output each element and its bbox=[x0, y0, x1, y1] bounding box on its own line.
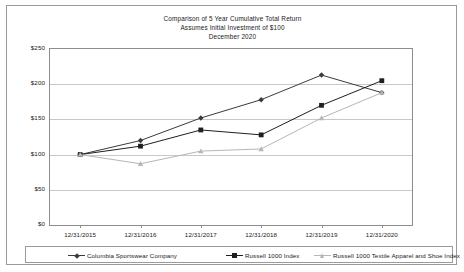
data-point-marker bbox=[138, 144, 143, 149]
y-axis-tick-label: $100 bbox=[9, 150, 45, 157]
data-point-marker bbox=[319, 103, 324, 108]
chart-legend: Columbia Sportswear CompanyRussell 1000 … bbox=[25, 246, 453, 263]
y-axis-tick-label: $200 bbox=[9, 79, 45, 86]
chart-title-block: Comparison of 5 Year Cumulative Total Re… bbox=[7, 14, 458, 42]
chart-title: Comparison of 5 Year Cumulative Total Re… bbox=[7, 14, 458, 23]
legend-swatch-triangle-icon bbox=[314, 251, 331, 260]
data-point-marker bbox=[259, 132, 264, 137]
data-point-marker bbox=[198, 115, 203, 120]
chart-date: December 2020 bbox=[7, 32, 458, 41]
legend-swatch-square-icon bbox=[226, 251, 243, 260]
series-line bbox=[80, 75, 382, 155]
chart-subtitle: Assumes Initial Investment of $100 bbox=[7, 23, 458, 32]
y-axis-tick-label: $250 bbox=[9, 44, 45, 51]
data-point-marker bbox=[258, 97, 263, 102]
legend-label: Columbia Sportswear Company bbox=[87, 252, 177, 259]
legend-swatch-diamond-icon bbox=[68, 251, 85, 260]
y-axis-tick-label: $0 bbox=[9, 220, 45, 227]
data-point-marker bbox=[198, 128, 203, 133]
data-point-marker bbox=[379, 78, 384, 83]
legend-entry: Russell 1000 Index bbox=[226, 250, 299, 261]
y-axis-tick-label: $50 bbox=[9, 185, 45, 192]
series-line bbox=[80, 93, 382, 164]
x-axis-tick-label: 12/31/2020 bbox=[347, 231, 417, 238]
chart-frame: Comparison of 5 Year Cumulative Total Re… bbox=[6, 5, 457, 265]
legend-entry: Columbia Sportswear Company bbox=[68, 250, 177, 261]
legend-label: Russell 1000 Index bbox=[245, 252, 299, 259]
series-line bbox=[80, 81, 382, 155]
data-point-marker bbox=[319, 72, 324, 77]
y-axis-tick-label: $150 bbox=[9, 114, 45, 121]
legend-label: Russell 1000 Textile Apparel and Shoe In… bbox=[333, 252, 460, 259]
series-lines bbox=[50, 49, 414, 227]
data-point-marker bbox=[319, 115, 324, 120]
legend-entry: Russell 1000 Textile Apparel and Shoe In… bbox=[314, 250, 460, 261]
plot-area bbox=[49, 48, 413, 226]
data-point-marker bbox=[138, 138, 143, 143]
